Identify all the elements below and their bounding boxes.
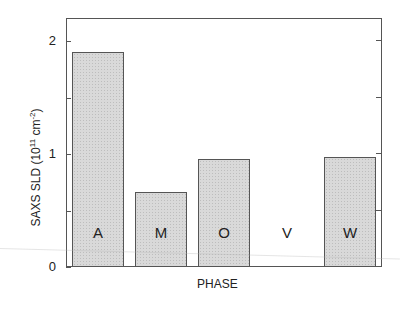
- x-axis-label: PHASE: [197, 277, 238, 291]
- y-tick-right: [376, 266, 381, 267]
- bar-chart: AMOVW 012 PHASE SAXS SLD (1011 cm-2): [0, 0, 400, 311]
- y-tick-right: [376, 210, 381, 211]
- bar-label-o: O: [198, 224, 250, 241]
- y-tick-right: [376, 153, 381, 154]
- bar-label-m: M: [135, 224, 187, 241]
- y-tick-label: 2: [36, 33, 56, 48]
- y-tick-right: [376, 97, 381, 98]
- y-tick-left: [66, 211, 71, 212]
- bar-label-v: V: [261, 224, 313, 241]
- y-tick-right: [376, 40, 381, 41]
- y-tick-left: [66, 267, 71, 268]
- y-tick-left: [66, 41, 71, 42]
- bar-o: [198, 159, 250, 267]
- y-tick-left: [66, 98, 71, 99]
- y-tick-left: [66, 154, 71, 155]
- y-axis-label: SAXS SLD (1011 cm-2): [28, 103, 43, 233]
- bar-label-w: W: [324, 224, 376, 241]
- y-tick-label: 0: [36, 259, 56, 274]
- bar-label-a: A: [72, 224, 124, 241]
- bar-w: [324, 157, 376, 267]
